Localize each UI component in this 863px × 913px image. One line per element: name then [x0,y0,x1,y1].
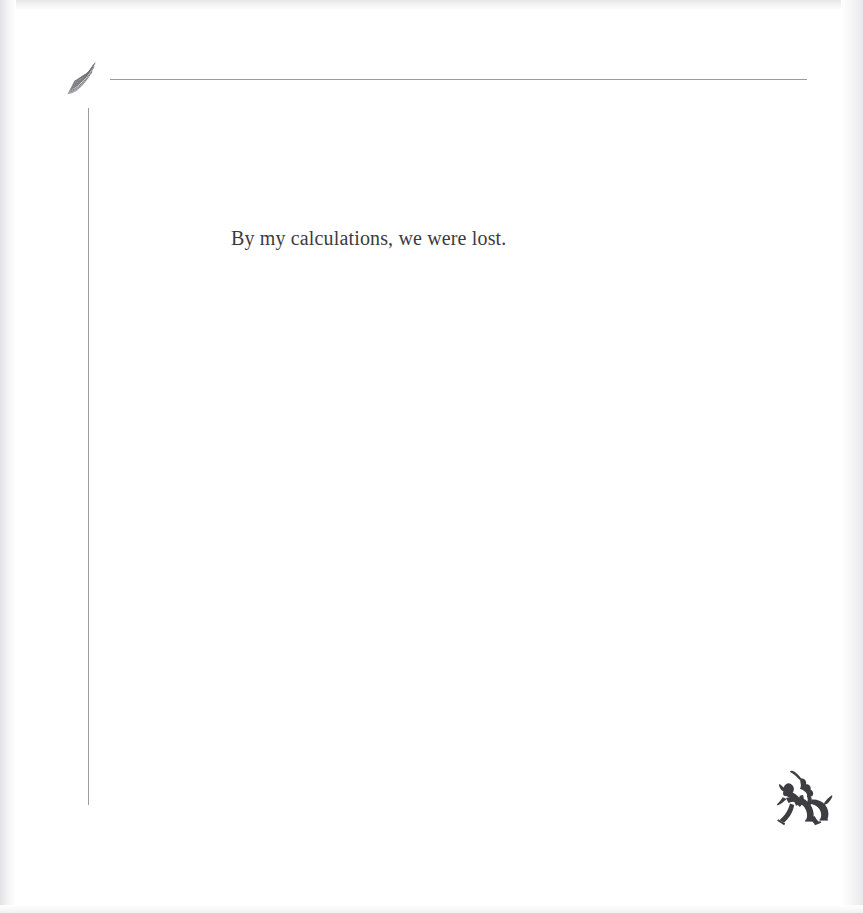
bucking-horse-and-rider-colophon [771,768,833,828]
scan-edge-bottom [0,905,863,913]
scan-edge-left [0,0,16,913]
fan-flourish-icon [66,58,100,96]
scan-edge-top [0,0,863,10]
fan-flourish-ornament [66,58,100,96]
book-page: By my calculations, we were lost. [0,0,863,913]
page-body-text: By my calculations, we were lost. [231,224,751,252]
scan-edge-right [841,0,863,913]
header-horizontal-rule [110,79,807,80]
bucking-horse-and-rider-icon [771,768,833,828]
left-margin-vertical-rule [88,108,89,805]
